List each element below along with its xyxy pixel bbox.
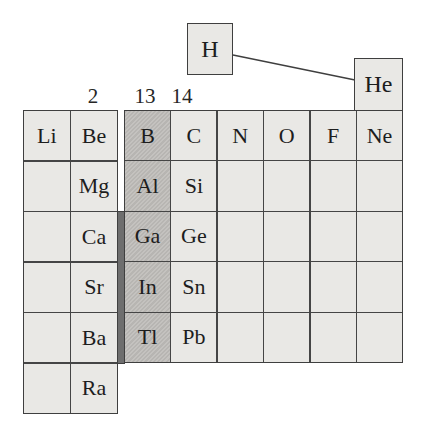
element-symbol: F <box>327 123 339 149</box>
element-symbol: Ga <box>135 223 161 249</box>
element-symbol: Mg <box>79 173 110 199</box>
element-cell-ca: Ca <box>71 212 117 261</box>
element-symbol: In <box>138 274 156 300</box>
element-cell-li: Li <box>24 111 70 160</box>
helium-symbol: He <box>365 71 393 98</box>
element-cell-empty <box>357 262 402 311</box>
group-label-14: 14 <box>159 84 205 108</box>
element-cell-al: Al <box>125 161 170 210</box>
group-label-2: 2 <box>70 84 116 108</box>
element-cell-empty <box>218 262 263 311</box>
element-symbol: Sn <box>182 274 205 300</box>
element-symbol: Be <box>82 123 106 149</box>
element-cell-f: F <box>311 111 356 160</box>
element-cell-empty <box>24 364 70 413</box>
element-symbol: Sr <box>84 274 104 300</box>
element-symbol: Ne <box>367 123 393 149</box>
element-cell-c: C <box>171 111 216 160</box>
p-block-grid: BCNOFNeAlSiGaGeInSnTlPb <box>124 110 403 363</box>
element-symbol: N <box>232 123 248 149</box>
element-symbol: Ca <box>82 224 106 250</box>
element-cell-empty <box>311 161 356 210</box>
element-cell-ra: Ra <box>71 364 117 413</box>
element-symbol: Ba <box>82 325 106 351</box>
periodic-table-fragment: H He 2 13 14 LiBeMgCaSrBaRa BCNOFNeAlSiG… <box>0 0 424 442</box>
hydrogen-box: H <box>187 23 233 75</box>
element-cell-empty <box>218 313 263 362</box>
element-cell-n: N <box>218 111 263 160</box>
element-cell-sr: Sr <box>71 263 117 312</box>
element-symbol: Al <box>137 173 159 199</box>
element-symbol: Pb <box>182 324 205 350</box>
element-cell-ba: Ba <box>71 313 117 362</box>
hydrogen-symbol: H <box>201 36 218 63</box>
element-cell-mg: Mg <box>71 162 117 211</box>
element-cell-ga: Ga <box>125 212 170 261</box>
element-cell-empty <box>264 262 309 311</box>
element-cell-empty <box>311 212 356 261</box>
element-cell-empty <box>24 162 70 211</box>
element-symbol: Li <box>37 123 57 149</box>
element-cell-ge: Ge <box>171 212 216 261</box>
element-symbol: Ge <box>181 223 207 249</box>
element-cell-empty <box>218 161 263 210</box>
element-cell-pb: Pb <box>171 313 216 362</box>
element-cell-empty <box>218 212 263 261</box>
element-cell-tl: Tl <box>125 313 170 362</box>
element-cell-ne: Ne <box>357 111 402 160</box>
element-cell-empty <box>264 212 309 261</box>
element-cell-empty <box>357 161 402 210</box>
element-cell-si: Si <box>171 161 216 210</box>
element-cell-empty <box>264 313 309 362</box>
element-cell-empty <box>357 313 402 362</box>
helium-box: He <box>354 58 403 111</box>
element-cell-b: B <box>125 111 170 160</box>
element-symbol: B <box>140 123 155 149</box>
element-cell-empty <box>357 212 402 261</box>
d-block-insertion-strip <box>117 211 125 364</box>
element-cell-empty <box>311 262 356 311</box>
s-block-grid: LiBeMgCaSrBaRa <box>23 110 118 414</box>
element-cell-be: Be <box>71 111 117 160</box>
element-symbol: Tl <box>138 324 158 350</box>
element-cell-in: In <box>125 262 170 311</box>
element-symbol: O <box>279 123 295 149</box>
element-symbol: Ra <box>82 375 106 401</box>
element-cell-empty <box>24 313 70 362</box>
element-symbol: C <box>187 123 202 149</box>
element-cell-empty <box>311 313 356 362</box>
element-cell-sn: Sn <box>171 262 216 311</box>
element-cell-empty <box>24 212 70 261</box>
element-cell-empty <box>24 263 70 312</box>
element-cell-empty <box>264 161 309 210</box>
element-symbol: Si <box>185 173 203 199</box>
element-cell-o: O <box>264 111 309 160</box>
